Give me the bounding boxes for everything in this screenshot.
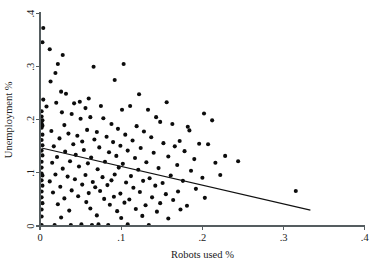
data-point [102,197,106,201]
data-point [144,203,148,207]
data-point [40,143,44,147]
data-point [109,122,113,126]
data-point [62,196,66,200]
data-point [187,128,191,132]
data-point [58,185,62,189]
data-point [73,177,77,181]
data-point [192,157,196,161]
data-point [78,100,82,104]
data-point [49,129,53,133]
regression-fit-line [42,148,311,210]
data-point [49,80,53,84]
data-point [66,175,70,179]
data-point [84,200,88,204]
data-point [173,144,177,148]
data-point [40,184,44,188]
x-tick-label: .2 [198,232,206,243]
data-point [223,154,227,158]
data-point [50,161,54,165]
data-point [206,142,210,146]
data-point [164,192,168,196]
y-tick-label: .2 [25,116,36,124]
data-point [133,156,137,160]
data-point [70,188,74,192]
data-point [124,180,128,184]
data-point [182,149,186,153]
data-point [105,183,109,187]
data-point [120,108,124,112]
data-point [131,186,135,190]
data-point [113,172,117,176]
y-tick-label: .1 [25,169,36,177]
y-tick-label: .3 [25,63,36,71]
data-point [141,179,145,183]
data-point [146,108,150,112]
data-point [40,40,44,44]
data-point [98,189,102,193]
data-point [121,162,125,166]
data-point [158,201,162,205]
data-point [116,127,120,131]
data-point [56,62,60,66]
data-point [148,176,152,180]
data-points-group [40,26,298,227]
data-point [107,150,111,154]
data-point [152,151,156,155]
data-point [135,124,139,128]
data-point [82,148,86,152]
data-point [175,163,179,167]
data-point [95,213,99,217]
data-point [165,100,169,104]
data-point [161,181,165,185]
data-point [100,175,104,179]
data-point [126,149,130,153]
data-point [44,104,48,108]
data-point [154,115,158,119]
data-point [186,125,190,129]
data-point [185,204,189,208]
data-point [59,90,63,94]
data-point [140,214,144,218]
data-point [118,144,122,148]
data-point [123,133,127,137]
data-point [161,141,165,145]
data-point [171,198,175,202]
data-point [52,144,56,148]
x-tick-label: .3 [280,232,288,243]
data-point [60,110,64,114]
x-axis-title: Robots used % [171,249,234,260]
data-point [112,195,116,199]
data-point [213,161,217,165]
data-point [88,206,92,210]
data-point [55,155,59,159]
data-point [54,101,58,105]
data-point [170,122,174,126]
data-point [80,183,84,187]
data-point [131,138,135,142]
data-point [113,78,117,82]
data-point [93,185,97,189]
data-point [41,26,45,30]
data-point [115,209,119,213]
data-point [200,176,204,180]
data-point [62,123,66,127]
data-point [70,112,74,116]
data-point [59,215,63,219]
data-point [79,117,83,121]
data-point [41,98,45,102]
data-point [66,132,70,136]
data-point [119,216,123,220]
data-point [99,104,103,108]
data-point [166,217,170,221]
data-point [202,111,206,115]
data-point [91,180,95,184]
data-point [96,167,100,171]
data-point [157,166,161,170]
data-point [111,140,115,144]
data-point [67,209,71,213]
data-point [139,146,143,150]
data-point [61,53,65,57]
data-point [108,203,112,207]
data-point [142,129,146,133]
data-point [56,202,60,206]
